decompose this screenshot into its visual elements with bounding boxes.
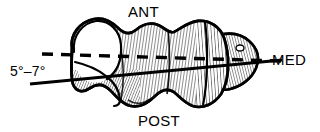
- figure-canvas: ANT POST MED 5°–7°: [0, 0, 320, 132]
- label-medial: MED: [272, 52, 306, 67]
- bone-body: [70, 16, 236, 114]
- label-anterior: ANT: [128, 4, 159, 19]
- label-posterior: POST: [138, 113, 180, 128]
- label-angle-value: 5°–7°: [10, 64, 46, 78]
- head-tubercle: [236, 45, 244, 51]
